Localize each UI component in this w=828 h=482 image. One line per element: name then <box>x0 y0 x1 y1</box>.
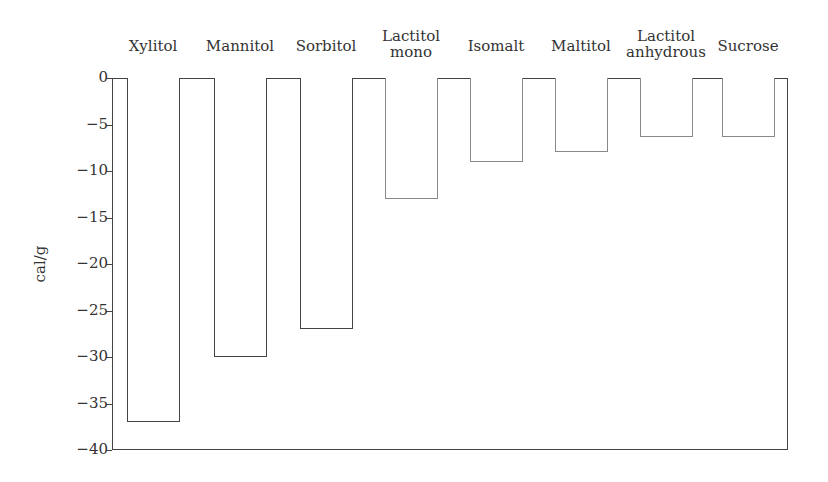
category-label: Isomalt <box>468 38 525 54</box>
y-tick-label: −30 <box>76 349 108 364</box>
bar <box>300 78 353 329</box>
y-tick-label: 0 <box>98 70 108 85</box>
y-tick-label: −10 <box>76 163 108 178</box>
y-axis-label: cal/g <box>31 246 49 283</box>
y-tick-label: −35 <box>76 396 108 411</box>
y-tick-label: −5 <box>86 117 108 132</box>
bar <box>127 78 180 422</box>
category-label: Lactitol mono <box>382 28 440 60</box>
category-label: Mannitol <box>206 38 274 54</box>
y-tick-label: −40 <box>76 442 108 457</box>
y-tick-label: −25 <box>76 303 108 318</box>
category-label: Maltitol <box>551 38 611 54</box>
bar <box>722 78 775 137</box>
bar <box>470 78 523 162</box>
bar <box>214 78 267 357</box>
bar <box>640 78 693 137</box>
bar <box>555 78 608 152</box>
category-label: Lactitol anhydrous <box>626 28 706 60</box>
category-label: Sucrose <box>717 38 778 54</box>
category-label: Sorbitol <box>296 38 357 54</box>
y-tick-label: −20 <box>76 256 108 271</box>
bar <box>385 78 438 199</box>
y-tick-label: −15 <box>76 210 108 225</box>
category-label: Xylitol <box>129 38 178 54</box>
